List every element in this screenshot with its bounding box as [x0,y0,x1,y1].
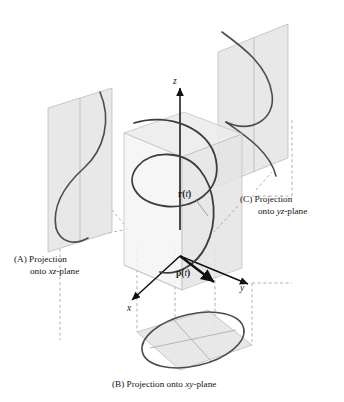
figure-canvas: (A) Projection onto xz-plane (C) Project… [0,0,344,402]
r-paren-close: ) [188,189,191,199]
caption-a-projection-xz: (A) Projection onto xz-plane [14,254,79,277]
caption-a-line1: (A) Projection [14,254,67,264]
caption-b-post: -plane [193,379,216,389]
caption-c-line2: onto yz-plane [240,206,307,218]
coordinate-box [124,112,242,290]
caption-c-projection-yz: (C) Projection onto yz-plane [240,194,307,217]
p-paren-close: ) [187,268,190,278]
axis-label-z: z [173,76,177,86]
caption-a-line2: onto xz-plane [14,266,79,278]
caption-a-post: -plane [56,266,79,276]
caption-a-pre: onto [30,266,49,276]
axis-label-y: y [240,283,244,293]
label-p-of-t: p(t) [176,268,190,278]
caption-c-post: -plane [284,206,307,216]
label-r-of-t: r(t) [178,189,191,199]
caption-c-pre: onto [258,206,277,216]
plane-xy [136,303,252,377]
axis-label-x: x [127,303,131,313]
plane-xz [48,88,112,252]
caption-c-line1: (C) Projection [240,194,292,204]
caption-b-pre: (B) Projection onto [112,379,185,389]
caption-b-projection-xy: (B) Projection onto xy-plane [112,379,216,391]
